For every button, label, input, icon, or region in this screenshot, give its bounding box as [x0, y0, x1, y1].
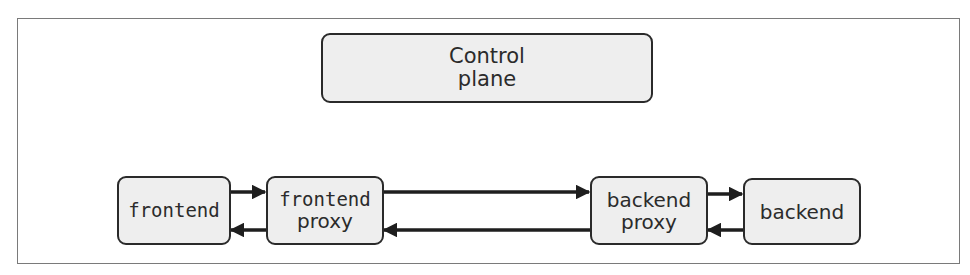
frontend-label: frontend [128, 200, 220, 221]
frontend-proxy-label-line1: frontend [279, 189, 371, 210]
backend-proxy-label-line2: proxy [621, 211, 677, 233]
frontend-proxy-node: frontend proxy [266, 176, 384, 245]
backend-label: backend [760, 201, 845, 223]
backend-node: backend [743, 178, 861, 245]
control-plane-label-line2: plane [458, 68, 516, 91]
frontend-proxy-label-line2: proxy [297, 210, 353, 232]
control-plane-label-line1: Control [449, 45, 525, 68]
control-plane-node: Control plane [321, 33, 653, 103]
backend-proxy-node: backend proxy [590, 176, 708, 245]
frontend-node: frontend [117, 176, 231, 245]
backend-proxy-label-line1: backend [607, 189, 692, 211]
